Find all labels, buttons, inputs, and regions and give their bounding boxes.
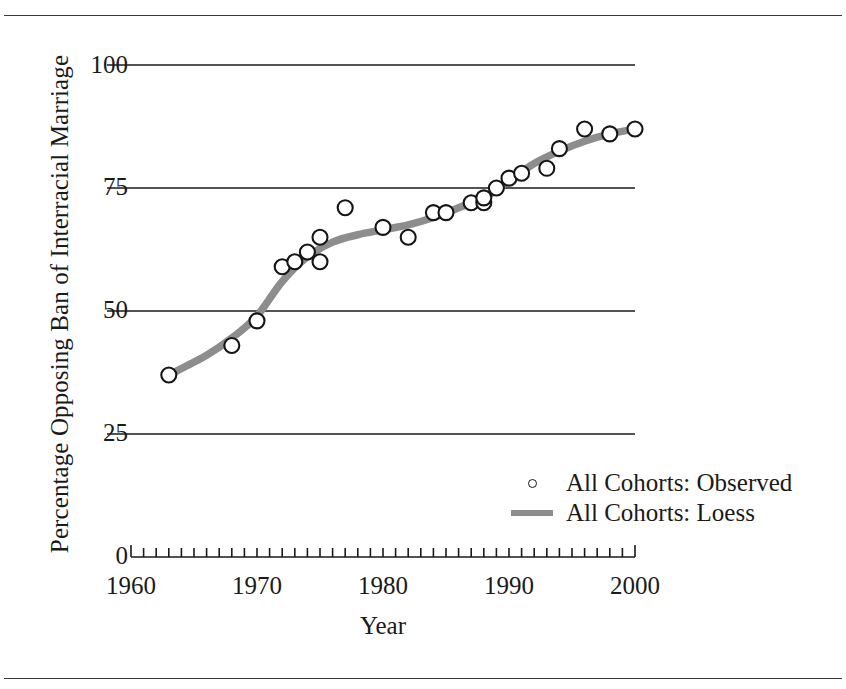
legend-entry-loess: All Cohorts: Loess (506, 498, 792, 528)
x-axis (131, 545, 635, 557)
chart-legend: All Cohorts: Observed All Cohorts: Loess (506, 468, 792, 528)
legend-entry-observed: All Cohorts: Observed (506, 468, 792, 498)
figure-frame: Percentage Opposing Ban of Interracial M… (0, 0, 846, 689)
loess-curve (169, 129, 635, 375)
thick-line-icon (506, 510, 558, 516)
gridlines (107, 65, 635, 434)
legend-label-observed: All Cohorts: Observed (558, 469, 792, 497)
plot-area (0, 0, 846, 689)
legend-label-loess: All Cohorts: Loess (558, 499, 755, 527)
open-circle-icon (506, 479, 558, 488)
observed-points (161, 121, 642, 382)
